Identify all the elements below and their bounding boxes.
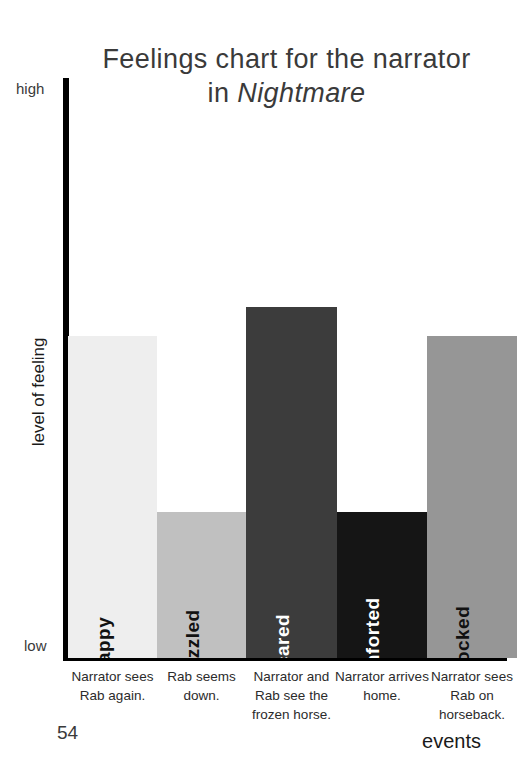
bar-label-scared: scared (273, 614, 292, 658)
category-label-1: Narrator sees Rab again. (64, 667, 161, 705)
y-axis-tick-high: high (16, 80, 44, 97)
y-axis-tick-low: low (24, 637, 47, 654)
category-label-4: Narrator arrives home. (333, 667, 431, 705)
bar-label-puzzled: puzzled (183, 609, 202, 658)
bar-puzzled: puzzled (157, 512, 246, 658)
category-label-5: Narrator sees Rab on horseback. (423, 667, 521, 724)
bar-happy: happy (68, 336, 157, 658)
bar-shocked: shocked (427, 336, 517, 658)
bar-label-shocked: shocked (453, 606, 472, 658)
category-label-row: Narrator sees Rab again.Rab seems down.N… (68, 667, 507, 737)
chart-title-line-1: Feelings chart for the narrator (102, 44, 470, 74)
bar-label-happy: happy (94, 617, 113, 658)
bar-label-comforted: comforted (363, 597, 382, 658)
bar-comforted: comforted (337, 512, 427, 658)
bar-scared: scared (246, 307, 337, 658)
plot-area: happypuzzledscaredcomfortedshocked (68, 78, 507, 658)
y-axis-title: level of feeling (29, 317, 49, 467)
category-label-2: Rab seems down. (153, 667, 250, 705)
category-label-3: Narrator and Rab see the frozen horse. (242, 667, 341, 724)
